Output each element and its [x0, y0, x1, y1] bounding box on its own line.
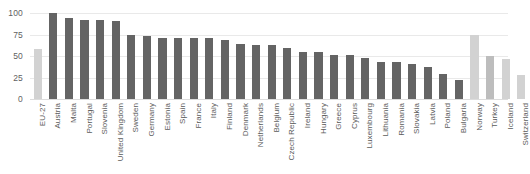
bar-eu-27: [34, 49, 42, 99]
bar-slot: [202, 13, 218, 99]
bar-lithuania: [377, 62, 385, 99]
bar-poland: [439, 74, 447, 99]
x-axis-label-slot: France: [186, 101, 202, 174]
y-axis-tick-label: 75: [13, 30, 23, 39]
x-axis-labels: EU-27AustriaMaltaPortugalSloveniaUnited …: [30, 101, 508, 174]
bar-austria: [49, 13, 57, 99]
bar-slot: [326, 13, 342, 99]
plot-area: [30, 13, 508, 99]
bar-portugal: [80, 20, 88, 99]
bar-cyprus: [346, 55, 354, 99]
x-axis-label-slot: EU-27: [30, 101, 46, 174]
bar-slot: [170, 13, 186, 99]
bar-slot: [389, 13, 405, 99]
bar-slovakia: [408, 64, 416, 99]
bar-ireland: [299, 52, 307, 99]
x-axis-label-slot: Germany: [139, 101, 155, 174]
x-axis-label-slot: Ireland: [295, 101, 311, 174]
bar-norway: [470, 35, 478, 99]
x-axis-label-slot: Bulgaria: [451, 101, 467, 174]
bar-netherlands: [252, 45, 260, 99]
bar-slot: [280, 13, 296, 99]
bar-slot: [46, 13, 62, 99]
x-axis-label-slot: Netherlands: [248, 101, 264, 174]
bar-iceland: [502, 59, 510, 99]
x-axis-label-slot: Romania: [389, 101, 405, 174]
x-axis-label-slot: Denmark: [233, 101, 249, 174]
x-axis-label-slot: Latvia: [420, 101, 436, 174]
bar-united-kingdom: [112, 21, 120, 99]
bar-slot: [404, 13, 420, 99]
bar-spain: [174, 38, 182, 99]
x-axis-label-slot: Greece: [326, 101, 342, 174]
bar-slot: [217, 13, 233, 99]
bar-slot: [264, 13, 280, 99]
x-axis-label-slot: Sweden: [124, 101, 140, 174]
bar-estonia: [158, 38, 166, 99]
x-axis-label-slot: Iceland: [498, 101, 514, 174]
bar-slovenia: [96, 20, 104, 99]
x-axis-label-slot: Slovakia: [404, 101, 420, 174]
bar-luxembourg: [361, 58, 369, 99]
bar-slot: [498, 13, 514, 99]
bar-czech-republic: [283, 48, 291, 99]
bar-slot: [295, 13, 311, 99]
x-axis-label-slot: Slovenia: [92, 101, 108, 174]
x-axis-label-slot: Poland: [436, 101, 452, 174]
y-axis-tick-label: 25: [13, 73, 23, 82]
x-axis-label-slot: Lithuania: [373, 101, 389, 174]
y-axis-tick-label: 100: [8, 9, 23, 18]
bar-slot: [77, 13, 93, 99]
bar-slot: [248, 13, 264, 99]
bar-denmark: [236, 44, 244, 99]
bar-france: [190, 38, 198, 99]
bar-slot: [61, 13, 77, 99]
bar-malta: [65, 18, 73, 99]
bar-slot: [373, 13, 389, 99]
bar-slot: [92, 13, 108, 99]
x-axis-label-slot: Cyprus: [342, 101, 358, 174]
bar-latvia: [424, 67, 432, 99]
bar-belgium: [268, 45, 276, 99]
gridline-0: [30, 99, 508, 100]
x-axis-label-slot: Malta: [61, 101, 77, 174]
bar-slot: [420, 13, 436, 99]
bar-slot: [482, 13, 498, 99]
bar-italy: [205, 38, 213, 99]
bar-slot: [108, 13, 124, 99]
bar-finland: [221, 40, 229, 99]
y-axis-tick-label: 0: [18, 95, 23, 104]
x-axis-label-slot: Austria: [46, 101, 62, 174]
bar-slot: [311, 13, 327, 99]
x-axis-label-slot: Italy: [202, 101, 218, 174]
bar-slot: [124, 13, 140, 99]
bar-germany: [143, 36, 151, 99]
x-axis-label-slot: Switzerland: [514, 101, 530, 174]
x-axis-label-slot: Norway: [467, 101, 483, 174]
x-axis-tick-label: Switzerland: [521, 103, 530, 145]
bar-sweden: [127, 35, 135, 99]
x-axis-label-slot: Turkey: [482, 101, 498, 174]
x-axis-label-slot: Portugal: [77, 101, 93, 174]
bar-slot: [514, 13, 530, 99]
x-axis-label-slot: Luxembourg: [358, 101, 374, 174]
bar-slot: [233, 13, 249, 99]
bar-slot: [139, 13, 155, 99]
bar-slot: [155, 13, 171, 99]
y-axis-tick-label: 50: [13, 52, 23, 61]
bar-slot: [30, 13, 46, 99]
x-axis-label-slot: United Kingdom: [108, 101, 124, 174]
bar-slot: [451, 13, 467, 99]
bar-slot: [186, 13, 202, 99]
bar-greece: [330, 55, 338, 99]
x-axis-label-slot: Czech Republic: [280, 101, 296, 174]
bar-romania: [392, 62, 400, 99]
x-axis-label-slot: Hungary: [311, 101, 327, 174]
bar-bulgaria: [455, 80, 463, 99]
x-axis-label-slot: Spain: [170, 101, 186, 174]
x-axis-label-slot: Estonia: [155, 101, 171, 174]
bar-slot: [467, 13, 483, 99]
bar-switzerland: [517, 75, 525, 99]
x-axis-label-slot: Finland: [217, 101, 233, 174]
